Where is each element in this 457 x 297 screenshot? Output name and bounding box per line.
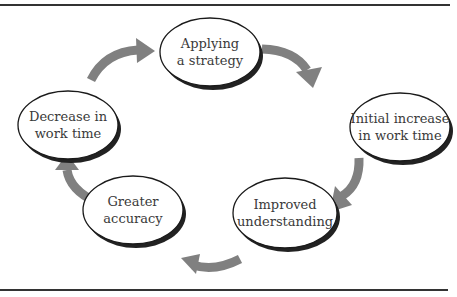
arrow-decrease-to-applying — [91, 38, 155, 80]
label-line: Improved — [237, 196, 333, 213]
label-line: work time — [29, 125, 107, 142]
cycle-diagram: Applying a strategy Initial increase in … — [0, 0, 457, 297]
label-line: Applying — [177, 35, 243, 52]
label-line: accuracy — [103, 210, 162, 227]
label-line: Decrease in — [29, 108, 107, 125]
label-applying-strategy: Applying a strategy — [177, 35, 243, 69]
label-initial-increase: Initial increase in work time — [351, 110, 450, 144]
arrow-applying-to-initial — [262, 49, 322, 88]
label-improved-understanding: Improved understanding — [237, 196, 333, 230]
arrow-improved-to-greater — [181, 254, 240, 274]
label-line: a strategy — [177, 52, 243, 69]
label-greater-accuracy: Greater accuracy — [103, 193, 162, 227]
label-line: Initial increase — [351, 110, 450, 127]
label-line: understanding — [237, 213, 333, 230]
label-decrease-work-time: Decrease in work time — [29, 108, 107, 142]
label-line: Greater — [103, 193, 162, 210]
label-line: in work time — [351, 127, 450, 144]
